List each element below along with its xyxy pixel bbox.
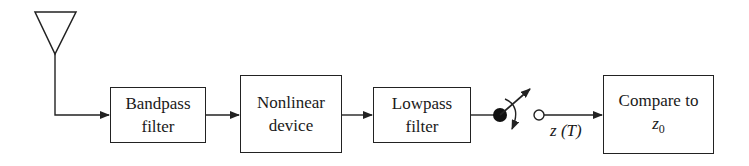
block-label-line2: filter: [405, 115, 438, 138]
block-label-line2: filter: [141, 115, 174, 138]
block-label-line1: Lowpass: [392, 92, 452, 115]
block-label-line1: Nonlinear: [257, 91, 325, 114]
block-label-line2: device: [269, 114, 313, 137]
threshold-subscript: 0: [659, 122, 665, 136]
nonlinear-device-block: Nonlinear device: [240, 75, 342, 153]
signal-arg: (T): [561, 121, 582, 140]
compare-block: Compare to z0: [603, 75, 714, 154]
signal-label: z (T): [550, 121, 582, 141]
threshold-var: z: [652, 114, 659, 133]
lowpass-filter-block: Lowpass filter: [373, 87, 471, 143]
block-label-line1: Compare to: [619, 89, 699, 112]
sampling-switch-icon: [493, 89, 544, 129]
wire-antenna-to-bandpass: [55, 54, 109, 115]
bandpass-filter-block: Bandpass filter: [110, 87, 206, 143]
threshold-label: z0: [652, 112, 665, 141]
block-label-line1: Bandpass: [125, 92, 190, 115]
signal-var: z: [550, 121, 557, 140]
antenna-icon: [35, 12, 76, 54]
